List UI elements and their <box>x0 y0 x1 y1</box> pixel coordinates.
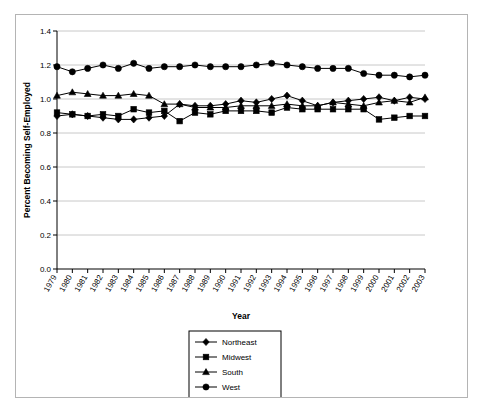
line-chart: 0.00.20.40.60.81.01.21.4 197919801981198… <box>16 15 467 397</box>
x-tick-label: 1980 <box>57 273 74 293</box>
data-point <box>392 115 398 121</box>
data-point <box>85 65 91 71</box>
data-point <box>376 117 382 123</box>
data-point <box>208 112 214 118</box>
data-point <box>192 62 198 68</box>
y-tick-label: 1.0 <box>40 95 52 104</box>
x-tick-label: 1987 <box>165 273 182 293</box>
data-point <box>422 72 428 78</box>
data-point <box>177 118 183 124</box>
y-tick-label: 0.6 <box>40 163 52 172</box>
data-point <box>238 64 244 70</box>
data-point <box>161 64 167 70</box>
x-tick-label: 1992 <box>241 273 258 293</box>
data-point <box>422 94 429 100</box>
y-tick-label: 0.2 <box>40 231 52 240</box>
data-point <box>268 95 274 102</box>
x-tick-label: 1986 <box>149 273 166 293</box>
x-tick-label: 1981 <box>73 273 90 293</box>
data-point <box>162 108 168 114</box>
x-tick-label: 1982 <box>88 273 105 293</box>
y-tick-label: 1.2 <box>40 61 52 70</box>
data-point <box>299 64 305 70</box>
series-west <box>54 60 428 80</box>
data-point <box>130 91 137 97</box>
data-point <box>346 106 352 112</box>
data-point <box>315 65 321 71</box>
data-point <box>361 70 367 76</box>
data-point <box>269 60 275 66</box>
data-point <box>223 64 229 70</box>
chart-figure: 0.00.20.40.60.81.01.21.4 197919801981198… <box>15 14 468 398</box>
legend-label-midwest: Midwest <box>222 353 252 362</box>
data-point <box>131 60 137 66</box>
x-tick-label: 2000 <box>364 273 381 293</box>
x-tick-label: 1997 <box>318 273 335 293</box>
data-point <box>269 110 275 116</box>
x-tick-label: 2003 <box>410 273 427 293</box>
data-point <box>116 113 122 119</box>
data-point <box>100 112 106 118</box>
data-point <box>407 113 413 119</box>
y-tick-label: 0.0 <box>40 265 52 274</box>
data-point <box>85 113 91 119</box>
data-point <box>238 108 244 114</box>
data-point <box>254 108 260 114</box>
data-point <box>407 74 413 80</box>
y-axis-ticks: 0.00.20.40.60.81.01.21.4 <box>40 27 57 274</box>
data-point <box>115 65 121 71</box>
x-tick-label: 1985 <box>134 273 151 293</box>
data-point <box>253 62 259 68</box>
data-series <box>54 60 429 124</box>
x-tick-label: 1984 <box>119 273 136 293</box>
x-tick-label: 1995 <box>287 273 304 293</box>
data-point <box>207 64 213 70</box>
data-point <box>54 64 60 70</box>
x-tick-label: 1996 <box>303 273 320 293</box>
data-point <box>330 65 336 71</box>
x-tick-label: 1999 <box>349 273 366 293</box>
x-tick-label: 1991 <box>226 273 243 293</box>
x-tick-label: 1983 <box>103 273 120 293</box>
legend-marker <box>203 354 209 360</box>
data-point <box>330 106 336 112</box>
x-tick-label: 2001 <box>379 273 396 293</box>
data-point <box>70 112 76 118</box>
gridlines <box>57 31 425 235</box>
data-point <box>284 101 291 107</box>
x-tick-label: 2002 <box>395 273 412 293</box>
y-tick-label: 0.8 <box>40 129 52 138</box>
data-point <box>284 62 290 68</box>
x-tick-label: 1979 <box>42 273 59 293</box>
data-point <box>391 72 397 78</box>
data-point <box>69 69 75 75</box>
data-point <box>345 65 351 71</box>
y-axis-label: Percent Becoming Self-Employed <box>22 82 32 218</box>
data-point <box>376 72 382 78</box>
y-tick-label: 1.4 <box>40 27 52 36</box>
data-point <box>100 62 106 68</box>
x-tick-label: 1989 <box>195 273 212 293</box>
x-tick-label: 1988 <box>180 273 197 293</box>
data-point <box>131 106 137 112</box>
data-point <box>146 65 152 71</box>
x-tick-label: 1998 <box>333 273 350 293</box>
legend-label-northeast: Northeast <box>222 338 257 347</box>
data-point <box>360 95 366 102</box>
chart-legend: NortheastMidwestSouthWest <box>189 331 281 397</box>
data-point <box>177 64 183 70</box>
y-tick-label: 0.4 <box>40 197 52 206</box>
x-axis-ticks: 1979198019811982198319841985198619871988… <box>42 269 427 293</box>
legend-marker <box>203 384 209 390</box>
x-tick-label: 1990 <box>211 273 228 293</box>
data-point <box>69 89 76 95</box>
x-tick-label: 1993 <box>257 273 274 293</box>
data-point <box>284 92 290 99</box>
data-point <box>192 110 198 116</box>
data-point <box>54 110 60 116</box>
x-axis-label: Year <box>232 311 251 321</box>
data-point <box>422 113 428 119</box>
x-tick-label: 1994 <box>272 273 289 293</box>
legend-label-south: South <box>222 368 243 377</box>
legend-label-west: West <box>222 383 241 392</box>
